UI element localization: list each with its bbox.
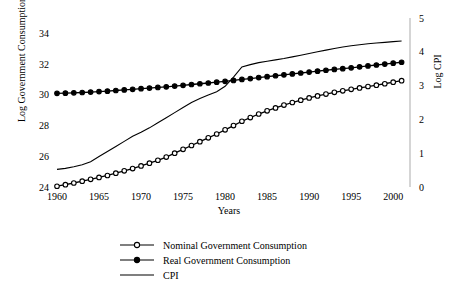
- chart-canvas: 242628303234 012345 19601965197019751980…: [0, 0, 458, 288]
- data-point-marker: [172, 151, 177, 156]
- data-point-marker: [105, 173, 110, 178]
- y-axis-right-tick-label: 1: [419, 148, 424, 159]
- data-point-marker: [80, 90, 85, 95]
- data-point-marker: [273, 73, 278, 78]
- data-point-marker: [114, 88, 119, 93]
- data-point-marker: [340, 66, 345, 71]
- y-axis-left-tick-label: 28: [39, 120, 49, 131]
- x-axis-ticks: 196019651970197519801985199019952000: [47, 191, 403, 202]
- data-point-marker: [189, 143, 194, 148]
- data-point-marker: [198, 139, 203, 144]
- chart-legend: Nominal Government ConsumptionReal Gover…: [120, 240, 307, 281]
- legend-swatch-marker: [134, 242, 139, 247]
- data-point-marker: [265, 109, 270, 114]
- data-point-marker: [248, 76, 253, 81]
- data-point-marker: [214, 80, 219, 85]
- data-point-marker: [282, 73, 287, 78]
- data-point-marker: [72, 91, 77, 96]
- data-point-marker: [88, 90, 93, 95]
- data-point-marker: [324, 92, 329, 97]
- data-point-marker: [206, 136, 211, 141]
- data-point-marker: [114, 171, 119, 176]
- data-point-marker: [198, 81, 203, 86]
- data-point-marker: [139, 86, 144, 91]
- chart-figure: Log Government Consumption Log CPI Years…: [0, 0, 458, 288]
- data-point-marker: [273, 106, 278, 111]
- data-point-marker: [122, 88, 127, 93]
- data-point-marker: [298, 98, 303, 103]
- legend-swatch-marker: [134, 257, 139, 262]
- data-point-marker: [399, 60, 404, 65]
- x-axis-tick-label: 1980: [215, 191, 235, 202]
- data-point-marker: [156, 85, 161, 90]
- data-point-marker: [97, 89, 102, 94]
- data-point-marker: [80, 179, 85, 184]
- y-axis-left-tick-label: 34: [39, 28, 49, 39]
- data-point-marker: [231, 123, 236, 128]
- data-point-marker: [256, 75, 261, 80]
- y-axis-left-tick-label: 30: [39, 89, 49, 100]
- data-point-marker: [63, 91, 68, 96]
- series-nominal-government-consumption: [55, 78, 404, 188]
- data-point-marker: [181, 147, 186, 152]
- data-point-marker: [399, 78, 404, 83]
- data-point-marker: [391, 61, 396, 66]
- data-point-marker: [156, 158, 161, 163]
- data-point-marker: [256, 112, 261, 117]
- data-point-marker: [357, 65, 362, 70]
- data-point-marker: [374, 83, 379, 88]
- x-axis-tick-label: 1975: [173, 191, 193, 202]
- y-axis-right-tick-label: 4: [419, 46, 424, 57]
- data-point-marker: [164, 85, 169, 90]
- data-series-layer: [55, 41, 404, 189]
- data-point-marker: [366, 64, 371, 69]
- data-point-marker: [88, 177, 93, 182]
- series-line: [57, 41, 402, 169]
- data-point-marker: [349, 87, 354, 92]
- data-point-marker: [307, 70, 312, 75]
- data-point-marker: [164, 155, 169, 160]
- series-line: [57, 81, 402, 187]
- data-point-marker: [391, 80, 396, 85]
- data-point-marker: [189, 82, 194, 87]
- x-axis-tick-label: 1985: [257, 191, 277, 202]
- data-point-marker: [282, 103, 287, 108]
- data-point-marker: [97, 175, 102, 180]
- data-point-marker: [340, 89, 345, 94]
- data-point-marker: [248, 115, 253, 120]
- data-point-marker: [332, 90, 337, 95]
- data-point-marker: [298, 71, 303, 76]
- y-axis-right-tick-label: 0: [419, 182, 424, 193]
- data-point-marker: [265, 74, 270, 79]
- data-point-marker: [147, 86, 152, 91]
- data-point-marker: [240, 77, 245, 82]
- data-point-marker: [206, 81, 211, 86]
- data-point-marker: [315, 94, 320, 99]
- y-axis-right-tick-label: 2: [419, 114, 424, 125]
- data-point-marker: [374, 63, 379, 68]
- data-point-marker: [315, 69, 320, 74]
- data-point-marker: [105, 89, 110, 94]
- data-point-marker: [349, 65, 354, 70]
- y-axis-right-ticks: 012345: [419, 13, 424, 193]
- series-cpi: [57, 41, 402, 169]
- data-point-marker: [214, 132, 219, 137]
- data-point-marker: [130, 166, 135, 171]
- data-point-marker: [55, 184, 60, 189]
- legend-label: CPI: [163, 270, 179, 281]
- data-point-marker: [290, 100, 295, 105]
- y-axis-right-tick-label: 5: [419, 13, 424, 24]
- data-point-marker: [366, 84, 371, 89]
- data-point-marker: [223, 79, 228, 84]
- x-axis-tick-label: 1960: [47, 191, 67, 202]
- data-point-marker: [55, 91, 60, 96]
- data-point-marker: [139, 164, 144, 169]
- data-point-marker: [382, 62, 387, 67]
- data-point-marker: [223, 128, 228, 133]
- data-point-marker: [147, 161, 152, 166]
- data-point-marker: [130, 87, 135, 92]
- legend-label: Real Government Consumption: [163, 255, 290, 266]
- x-axis-tick-label: 1990: [299, 191, 319, 202]
- data-point-marker: [63, 182, 68, 187]
- data-point-marker: [324, 68, 329, 73]
